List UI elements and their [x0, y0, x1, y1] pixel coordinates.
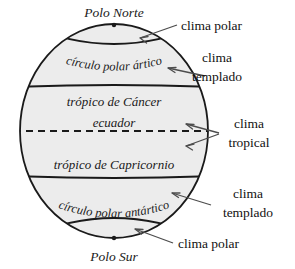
label-clima-templado-norte-line1: clima: [202, 50, 232, 65]
label-clima-polar-sur: clima polar: [178, 236, 240, 251]
climate-zones-diagram: círculo polar ártico trópico de Cáncer e…: [0, 0, 295, 269]
label-polo-sur: Polo Sur: [89, 249, 138, 264]
label-clima-templado-sur-line2: templado: [223, 205, 273, 220]
arrow-line-clima-polar-sur: [135, 229, 173, 243]
label-clima-templado-sur-line1: clima: [233, 186, 263, 201]
south-pole-dot: [112, 236, 116, 240]
label-tropico-de-capricornio: trópico de Capricornio: [54, 157, 175, 172]
label-clima-tropical-line2: tropical: [228, 135, 269, 150]
label-clima-polar-norte: clima polar: [181, 18, 243, 33]
climate-zones-figure: círculo polar ártico trópico de Cáncer e…: [0, 0, 295, 269]
label-ecuador: ecuador: [93, 115, 137, 130]
north-pole-dot: [112, 23, 116, 27]
label-tropico-de-cancer: trópico de Cáncer: [67, 94, 163, 109]
label-polo-norte: Polo Norte: [83, 5, 144, 20]
label-clima-templado-norte-line2: templado: [192, 69, 242, 84]
label-clima-tropical-line1: clima: [234, 116, 264, 131]
